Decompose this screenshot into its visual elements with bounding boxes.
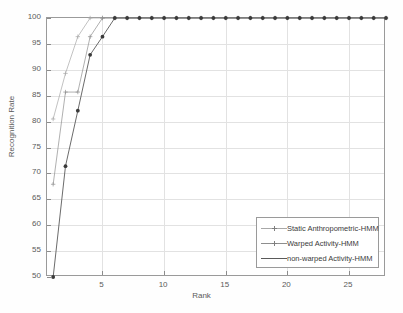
figure: Recognition Rate Rank 505560657075808590… [0,0,403,313]
data-point [372,16,376,20]
data-point [175,16,179,20]
data-point [322,16,326,20]
x-tick-label: 25 [336,281,360,289]
data-point [113,16,117,20]
y-axis-title: Recognition Rate [7,72,16,182]
legend-swatch-static-anthropometric-hmm [261,224,287,234]
data-point [261,16,265,20]
data-point [285,16,289,20]
y-tick-label: 50 [11,272,41,280]
y-tick-label: 65 [11,194,41,202]
data-point [335,16,339,20]
data-point [88,34,92,38]
data-point [347,16,351,20]
x-axis-title: Rank [0,291,403,300]
y-tick-label: 80 [11,117,41,125]
data-point [63,71,67,75]
series-line-1 [53,18,386,184]
data-point [199,16,203,20]
data-point [224,16,228,20]
data-point [359,16,363,20]
y-tick-label: 90 [11,65,41,73]
y-tick-label: 100 [11,13,41,21]
data-point [138,16,142,20]
y-tick [47,277,51,278]
legend-item-warped-activity-hmm[interactable]: Warped Activity-HMM [257,236,378,251]
data-point [310,16,314,20]
data-point [162,16,166,20]
data-point [64,164,68,168]
legend-swatch-non-warped-activity-hmm [261,254,287,264]
x-tick-label: 15 [213,281,237,289]
data-point [51,182,55,186]
data-point [100,16,104,20]
x-tick-label: 10 [151,281,175,289]
legend-label: Static Anthropometric-HMM [287,225,379,233]
data-point [51,275,55,279]
data-point [212,16,216,20]
data-point [384,16,388,20]
x-tick-label: 5 [89,281,113,289]
y-tick-label: 70 [11,168,41,176]
data-point [273,16,277,20]
y-tick-label: 55 [11,246,41,254]
legend-item-static-anthropometric-hmm[interactable]: Static Anthropometric-HMM [257,221,378,236]
data-point [51,117,55,121]
data-point [88,16,92,20]
y-tick-label: 85 [11,91,41,99]
y-tick-label: 60 [11,220,41,228]
data-point [125,16,129,20]
y-tick-label: 75 [11,143,41,151]
data-point [298,16,302,20]
data-point [88,53,92,57]
legend: Static Anthropometric-HMM Warped Activit… [256,217,379,268]
data-point [236,16,240,20]
legend-label: Warped Activity-HMM [287,240,359,248]
data-point [101,35,105,39]
series-line-0 [53,18,386,119]
data-point [76,90,80,94]
y-tick-label: 95 [11,39,41,47]
data-point [187,16,191,20]
data-point [63,90,67,94]
legend-item-non-warped-activity-hmm[interactable]: non-warped Activity-HMM [257,251,378,266]
legend-swatch-warped-activity-hmm [261,239,287,249]
legend-label: non-warped Activity-HMM [287,255,372,263]
data-point [150,16,154,20]
data-point [76,109,80,113]
data-point [76,34,80,38]
data-point [249,16,253,20]
x-tick-label: 20 [274,281,298,289]
